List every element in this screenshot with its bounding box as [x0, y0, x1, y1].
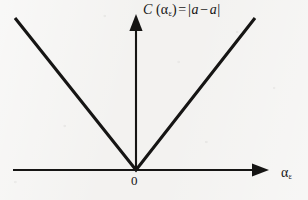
- y-axis-label: C (αε)=|a−ˆa|: [143, 2, 221, 18]
- y-label-term-a: a: [192, 2, 199, 17]
- y-label-a-hat: ˆa: [210, 3, 217, 17]
- x-axis-label: αε: [281, 166, 292, 181]
- x-label-alpha-symbol: α: [281, 165, 288, 180]
- y-label-minus: −: [200, 2, 208, 17]
- origin-label: 0: [131, 174, 138, 187]
- y-axis-group: [129, 14, 142, 170]
- plot-canvas: [0, 0, 308, 200]
- y-axis-arrowhead-icon: [129, 14, 142, 31]
- x-axis-arrowhead-icon: [252, 163, 269, 176]
- y-label-right-bar: |: [217, 1, 220, 17]
- y-label-close-paren: ): [172, 2, 177, 17]
- y-label-equals: =: [178, 2, 186, 17]
- figure-root: C (αε)=|a−ˆa| αε 0: [0, 0, 308, 200]
- y-label-hat-accent: ˆ: [211, 0, 215, 8]
- x-label-alpha-subscript: ε: [289, 172, 292, 181]
